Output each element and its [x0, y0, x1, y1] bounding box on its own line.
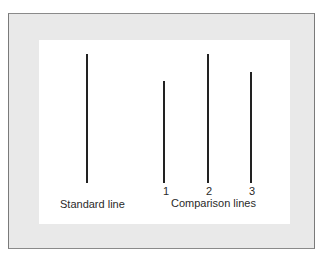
comparison-line-2 — [207, 54, 209, 183]
comparison-line-3-number: 3 — [249, 186, 255, 197]
comparison-line-3 — [250, 72, 252, 183]
comparison-line-1-number: 1 — [163, 186, 169, 197]
comparison-line-1 — [163, 81, 165, 183]
comparison-line-2-number: 2 — [206, 186, 212, 197]
comparison-lines-label: Comparison lines — [171, 198, 256, 209]
standard-line — [86, 54, 88, 183]
standard-line-label: Standard line — [60, 199, 125, 210]
